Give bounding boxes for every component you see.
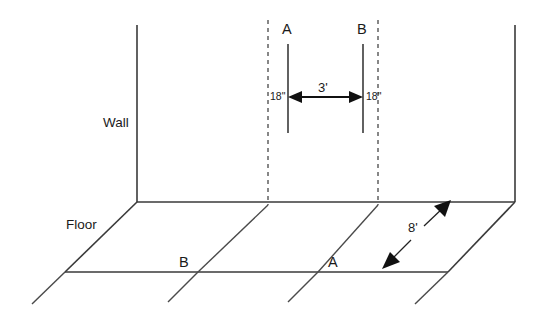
floor-diagonal-a-extension bbox=[288, 272, 318, 302]
dimension-arrowhead-left bbox=[288, 91, 302, 103]
dimension-arrowhead-right bbox=[349, 91, 363, 103]
floor-left-extension bbox=[32, 272, 65, 304]
floor-right-extension bbox=[415, 272, 448, 304]
floor-diagonal-b bbox=[198, 205, 268, 272]
floor-label: Floor bbox=[66, 218, 97, 232]
dimension-label-8ft: 8' bbox=[408, 221, 418, 234]
wall-marker-label-a: A bbox=[282, 22, 292, 37]
floor-diagonal-a bbox=[318, 205, 378, 272]
floor-diagonal-b-extension bbox=[168, 272, 198, 302]
floor-right-edge bbox=[448, 202, 515, 272]
room-diagram-svg bbox=[0, 0, 543, 331]
wall-label: Wall bbox=[103, 116, 129, 130]
floor-marker-label-b: B bbox=[179, 255, 189, 270]
dimension-label-3ft: 3' bbox=[318, 81, 328, 94]
dimension-arrow-8ft-lower-line bbox=[392, 240, 411, 259]
floor-left-edge bbox=[65, 202, 137, 272]
dimension-label-18in-left: 18" bbox=[270, 91, 285, 102]
floor-marker-label-a: A bbox=[328, 255, 338, 270]
diagram-canvas: Wall Floor A B 18" 18" 3' 8' B A bbox=[0, 0, 543, 331]
wall-marker-label-b: B bbox=[357, 22, 367, 37]
dimension-label-18in-right: 18" bbox=[366, 91, 381, 102]
